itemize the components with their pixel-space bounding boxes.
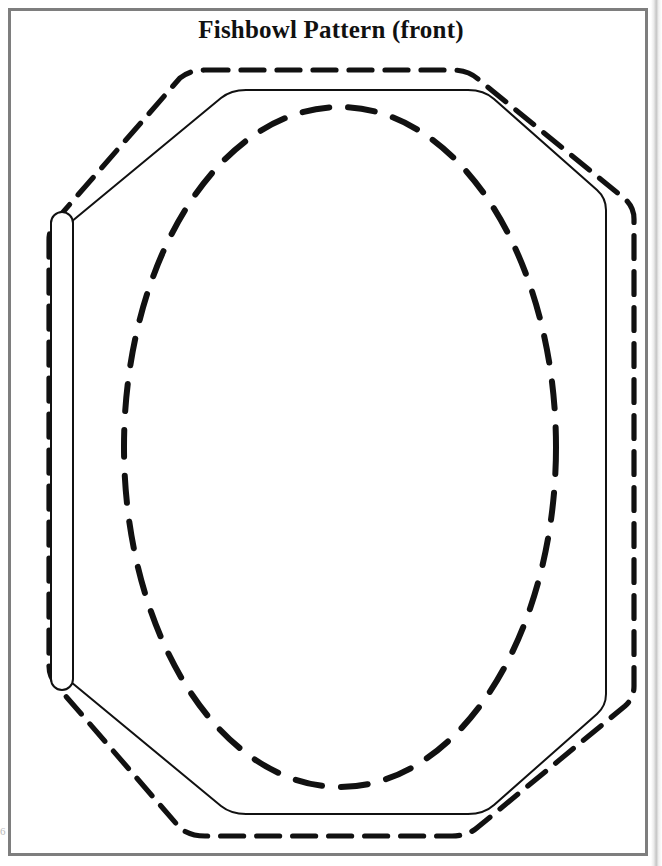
left-fold-tab (51, 212, 73, 690)
inner-fold-line-solid-octagon (63, 90, 606, 814)
margin-scan-mark: 6 (0, 826, 8, 848)
pattern-page: Fishbowl Pattern (front) 6 (0, 0, 662, 866)
fishbowl-pattern-drawing (0, 0, 662, 866)
outer-cut-line-dashed-octagon (49, 70, 634, 836)
window-oval-dashed (124, 107, 556, 787)
